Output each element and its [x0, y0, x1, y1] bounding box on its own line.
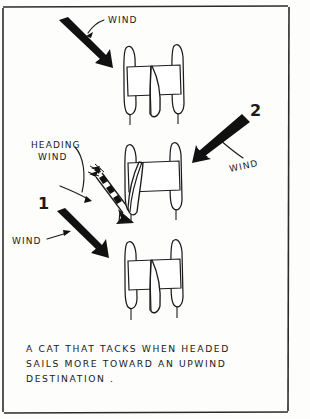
catamaran-middle [125, 143, 182, 222]
wind-top-pointer [86, 20, 104, 38]
catamaran-bottom [125, 240, 183, 320]
caption-line-3: DESTINATION . [26, 373, 115, 384]
caption-line-1: A CAT THAT TACKS WHEN HEADED [26, 343, 230, 354]
catamaran-top [124, 45, 184, 125]
heading-wind-label-line1: HEADING [31, 140, 81, 150]
step-number-one: 1 [38, 194, 49, 213]
wind-right-pointer [217, 137, 243, 158]
heading-wind-label-line2: WIND [38, 152, 68, 162]
step-number-two: 2 [250, 101, 261, 120]
wind-label-left: WIND [12, 236, 42, 246]
wind-arrow-right [192, 114, 250, 163]
wind-arrow-top [59, 17, 113, 68]
sailing-diagram: WIND WIND 2 HEADING [0, 0, 310, 419]
wind-label-right: WIND [228, 158, 259, 174]
wind-left-pointer [47, 230, 71, 239]
caption-line-2: SAILS MORE TOWARD AN UPWIND [26, 358, 227, 369]
figure-canvas: WIND WIND 2 HEADING [0, 0, 310, 419]
wind-label-top: WIND [108, 15, 138, 25]
